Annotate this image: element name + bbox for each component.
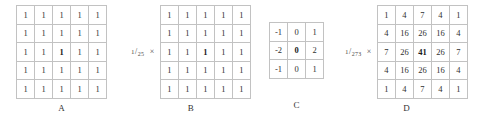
kernel-row: 11111 (17, 43, 107, 62)
kernel-cell: 1 (232, 24, 250, 43)
kernel-cell: 1 (17, 43, 35, 62)
kernel-cell: 1 (178, 43, 196, 62)
kernel-row: 11111 (160, 80, 250, 99)
kernel-cell: 1 (35, 6, 53, 25)
kernel-cell: 7 (413, 80, 431, 99)
fraction-b: 1 / 25 (131, 47, 144, 56)
kernel-matrix-a: 1111111111111111111111111 (16, 5, 107, 99)
kernel-cell: 4 (377, 24, 395, 43)
kernel-row-wrap-c: -101-202-101 (269, 22, 324, 79)
kernel-cell: 1 (196, 24, 214, 43)
kernel-cell: 1 (232, 43, 250, 62)
kernel-cell: 1 (214, 43, 232, 62)
kernel-row: 11111 (160, 24, 250, 43)
kernel-row: 11111 (17, 6, 107, 25)
kernel-cell: 1 (160, 24, 178, 43)
kernel-cell: 1 (71, 6, 89, 25)
kernel-cell: 26 (413, 24, 431, 43)
kernel-cell: 1 (53, 6, 71, 25)
kernel-cell: 1 (232, 61, 250, 80)
kernel-row-wrap-a: 1111111111111111111111111 (16, 5, 107, 99)
kernel-row-wrap-d: 1 / 273 × 147414162616472641267416261641… (345, 5, 468, 99)
kernel-cell: 4 (431, 6, 449, 25)
kernel-cell: 1 (71, 61, 89, 80)
kernel-cell: 4 (395, 80, 413, 99)
kernel-group-a: 1111111111111111111111111 A (16, 5, 107, 112)
kernel-cell: 1 (160, 43, 178, 62)
kernel-scale-label-b: 1 / 25 × (131, 47, 155, 56)
kernel-cell: 1 (89, 80, 107, 99)
kernel-scale-label-d: 1 / 273 × (345, 47, 372, 56)
kernel-cell-center: 1 (196, 43, 214, 62)
kernel-cell: 1 (35, 43, 53, 62)
kernel-group-c: -101-202-101 C (269, 22, 324, 110)
kernel-cell: 1 (449, 6, 467, 25)
kernel-group-d: 1 / 273 × 147414162616472641267416261641… (345, 5, 468, 112)
kernel-cell: 1 (178, 6, 196, 25)
kernel-cell: 16 (395, 61, 413, 80)
kernel-cell: 1 (196, 80, 214, 99)
kernel-cell: 1 (377, 80, 395, 99)
kernel-cell: 1 (71, 80, 89, 99)
kernel-cell: 1 (232, 6, 250, 25)
kernel-cell: 16 (431, 24, 449, 43)
fraction-d: 1 / 273 (345, 47, 361, 56)
kernel-cell: 1 (35, 24, 53, 43)
kernel-row: 11111 (160, 43, 250, 62)
kernel-cell: 1 (17, 61, 35, 80)
kernel-row: -202 (270, 41, 324, 60)
kernel-cell: 1 (196, 6, 214, 25)
kernel-row: 11111 (160, 61, 250, 80)
kernel-row: -101 (270, 60, 324, 79)
kernel-cell: 1 (449, 80, 467, 99)
kernel-row: 41626164 (377, 61, 467, 80)
kernel-cell: 26 (395, 43, 413, 62)
kernel-cell: 1 (214, 80, 232, 99)
kernel-cell: 1 (89, 43, 107, 62)
kernel-cell: 2 (306, 41, 324, 60)
kernel-caption-c: C (293, 100, 299, 110)
kernel-group-b: 1 / 25 × 1111111111111111111111111 B (131, 5, 251, 112)
kernel-row: 14741 (377, 6, 467, 25)
kernel-cell: 26 (413, 61, 431, 80)
kernel-cell: 1 (35, 61, 53, 80)
kernel-cell: 1 (306, 60, 324, 79)
kernel-figure: 1111111111111111111111111 A 1 / 25 × 111… (0, 0, 479, 112)
kernel-cell: 1 (178, 24, 196, 43)
kernel-cell: 4 (395, 6, 413, 25)
kernel-cell: 7 (413, 6, 431, 25)
kernel-cell: 26 (431, 43, 449, 62)
kernel-cell: 1 (17, 24, 35, 43)
fraction-denominator-d: 273 (352, 51, 362, 57)
kernel-cell: 1 (71, 24, 89, 43)
kernel-cell: 1 (35, 80, 53, 99)
kernel-row: 11111 (17, 61, 107, 80)
kernel-cell: 1 (377, 6, 395, 25)
kernel-matrix-c: -101-202-101 (269, 22, 324, 79)
kernel-caption-d: D (403, 103, 410, 113)
kernel-cell: 7 (377, 43, 395, 62)
kernel-cell: 1 (53, 61, 71, 80)
kernel-cell: 1 (214, 61, 232, 80)
kernel-cell: 1 (178, 80, 196, 99)
kernel-cell-center: 41 (413, 43, 431, 62)
kernel-cell: 1 (160, 6, 178, 25)
kernel-cell: 1 (17, 6, 35, 25)
kernel-cell: 1 (214, 6, 232, 25)
kernel-row: 11111 (160, 6, 250, 25)
kernel-cell: 1 (232, 80, 250, 99)
kernel-cell: 4 (449, 24, 467, 43)
kernel-cell: 1 (89, 61, 107, 80)
kernel-cell: 0 (288, 23, 306, 42)
kernel-caption-a: A (58, 103, 65, 113)
kernel-cell: 1 (17, 80, 35, 99)
kernel-cell: 1 (178, 61, 196, 80)
kernel-cell: 1 (53, 24, 71, 43)
kernel-cell: -2 (270, 41, 288, 60)
kernel-cell: 1 (89, 6, 107, 25)
kernel-row: 72641267 (377, 43, 467, 62)
kernel-caption-b: B (188, 103, 194, 113)
kernel-cell: 4 (449, 61, 467, 80)
kernel-row: 14741 (377, 80, 467, 99)
kernel-row: 11111 (17, 80, 107, 99)
